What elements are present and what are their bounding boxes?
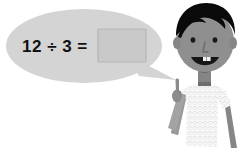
character-eye-left <box>191 37 196 43</box>
character-pointing-finger <box>176 79 180 93</box>
character-collar <box>198 82 211 86</box>
answer-box[interactable] <box>98 29 146 62</box>
equation-text: 12 ÷ 3 = <box>22 37 88 56</box>
character-ear-right <box>229 37 237 49</box>
character-ear-left <box>173 37 181 49</box>
character-tooth-left <box>203 57 207 61</box>
character-eye-right <box>213 37 218 43</box>
scene-svg: 12 ÷ 3 = <box>0 0 246 158</box>
illustration-canvas: 12 ÷ 3 = <box>0 0 246 158</box>
character-tooth-right <box>207 57 211 61</box>
